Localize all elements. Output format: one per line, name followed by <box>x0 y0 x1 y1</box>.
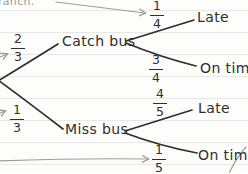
probability-tree-diagram: ranch. Catch bus Miss bus Late On time L… <box>0 0 248 173</box>
probability-fraction-one-third: 1 3 <box>10 104 24 134</box>
fraction-numerator: 1 <box>10 104 24 120</box>
probability-fraction-four-fifths: 4 5 <box>153 88 167 118</box>
probability-fraction-two-thirds: 2 3 <box>11 33 25 63</box>
outcome-label-miss-late: Late <box>198 101 230 116</box>
annotation-arrow-to-one-quarter-icon <box>56 2 145 13</box>
fraction-numerator: 3 <box>149 54 163 70</box>
branch-root-to-catch-bus <box>0 44 58 81</box>
fraction-denominator: 3 <box>10 120 24 135</box>
fraction-denominator: 4 <box>149 70 163 85</box>
annotation-arrow-to-one-third-icon <box>0 111 5 114</box>
annotation-arrow-to-one-fifth-icon <box>0 159 148 161</box>
outcome-label-miss-on-time: On time <box>198 148 248 163</box>
annotation-arrow-to-two-thirds-icon <box>0 54 7 58</box>
outcome-label-catch-late: Late <box>197 10 229 25</box>
probability-fraction-one-quarter: 1 4 <box>150 0 164 30</box>
fraction-denominator: 5 <box>153 104 167 119</box>
fraction-denominator: 4 <box>150 16 164 31</box>
fraction-numerator: 1 <box>150 0 164 16</box>
fraction-numerator: 4 <box>153 88 167 104</box>
probability-fraction-three-quarters: 3 4 <box>149 54 163 84</box>
fraction-denominator: 3 <box>11 49 25 64</box>
node-label-catch-bus: Catch bus <box>62 34 136 49</box>
probability-fraction-one-fifth: 1 5 <box>152 144 166 173</box>
clipped-annotation-text: ranch. <box>0 0 35 8</box>
fraction-numerator: 1 <box>152 144 166 160</box>
outcome-label-catch-on-time: On time <box>200 61 248 76</box>
fraction-denominator: 5 <box>152 160 166 174</box>
node-label-miss-bus: Miss bus <box>65 122 128 137</box>
fraction-numerator: 2 <box>11 33 25 49</box>
